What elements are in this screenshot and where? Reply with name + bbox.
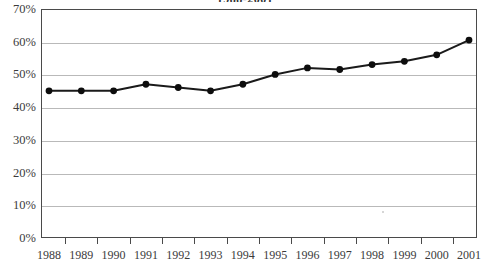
x-axis-labels: 1988198919901991199219931994199519961997…: [0, 248, 490, 268]
data-series-line: 1988: 45%1989: 45%1990: 45%1991: 47%1992…: [41, 9, 477, 238]
y-axis-labels: 0%10%20%30%40%50%60%70%: [0, 0, 41, 279]
y-axis-label: 0%: [19, 232, 36, 244]
x-axis-tick: [421, 238, 422, 244]
data-point-marker: 1988: 45%: [46, 87, 53, 94]
x-axis-label: 1996: [295, 248, 319, 262]
x-axis-label: 1993: [199, 248, 223, 262]
data-point-marker: 1997: 51.5%: [336, 66, 343, 73]
data-point-marker: 1998: 53%: [369, 61, 376, 68]
y-axis-label: 70%: [13, 3, 36, 15]
x-axis-label: 2000: [425, 248, 449, 262]
x-axis-tick: [162, 238, 163, 244]
y-axis-label: 50%: [13, 68, 36, 80]
x-axis-label: 1988: [37, 248, 61, 262]
x-axis-tick: [227, 238, 228, 244]
x-axis-label: 1989: [69, 248, 93, 262]
chart-title: 1988-2001: [0, 0, 490, 2]
data-point-marker: 1999: 54%: [401, 58, 408, 65]
x-axis-tick: [453, 238, 454, 244]
x-axis-label: 1998: [360, 248, 384, 262]
x-axis-label: 1997: [328, 248, 352, 262]
x-axis-label: 1990: [102, 248, 126, 262]
data-point-marker: 1995: 50%: [272, 71, 279, 78]
x-axis-label: 1994: [231, 248, 255, 262]
y-axis-label: 60%: [13, 36, 36, 48]
data-point-marker: 1991: 47%: [143, 81, 150, 88]
x-axis-label: 1992: [166, 248, 190, 262]
x-axis-tick: [388, 238, 389, 244]
x-axis-tick: [291, 238, 292, 244]
line-chart: 1988-2001 1988: 45%1989: 45%1990: 45%199…: [0, 0, 490, 279]
x-axis-tick: [259, 238, 260, 244]
x-axis-label: 1999: [392, 248, 416, 262]
y-axis-label: 40%: [13, 101, 36, 113]
data-point-marker: 1994: 47%: [239, 81, 246, 88]
data-point-marker: 1990: 45%: [110, 87, 117, 94]
x-axis-label: 1995: [263, 248, 287, 262]
x-axis-tick: [356, 238, 357, 244]
y-axis-label: 10%: [13, 199, 36, 211]
x-axis-tick: [65, 238, 66, 244]
data-point-marker: 1989: 45%: [78, 87, 85, 94]
x-axis-label: 2001: [457, 248, 481, 262]
data-point-marker: 1992: 46%: [175, 84, 182, 91]
x-axis-tick: [194, 238, 195, 244]
data-point-marker: 1993: 45%: [207, 87, 214, 94]
data-point-marker: 1996: 52%: [304, 64, 311, 71]
x-axis-tick: [324, 238, 325, 244]
x-axis-tick: [97, 238, 98, 244]
scan-artifact-speck: [382, 211, 384, 213]
y-axis-label: 20%: [13, 167, 36, 179]
data-point-marker: 2000: 56%: [433, 51, 440, 58]
x-axis-tick: [130, 238, 131, 244]
x-axis-ticks: [41, 238, 477, 244]
y-axis-label: 30%: [13, 134, 36, 146]
series-polyline: [49, 40, 469, 91]
x-axis-label: 1991: [134, 248, 158, 262]
data-point-marker: 2001: 60.5%: [466, 37, 473, 44]
